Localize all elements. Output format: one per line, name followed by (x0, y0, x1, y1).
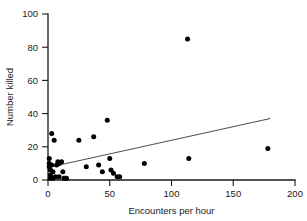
data-point (100, 169, 105, 174)
y-tick-label-60: 60 (27, 75, 38, 86)
x-axis-title: Encounters per hour (128, 205, 214, 216)
y-tick-label-0: 0 (33, 174, 38, 185)
data-point (142, 161, 147, 166)
data-point (107, 156, 112, 161)
data-point (91, 134, 96, 139)
data-point (49, 131, 54, 136)
data-point (60, 169, 65, 174)
data-point (111, 171, 116, 176)
data-point (186, 156, 191, 161)
y-axis-title: Number killed (4, 68, 15, 126)
data-point (47, 156, 52, 161)
data-point (76, 138, 81, 143)
data-point (50, 169, 55, 174)
data-point (117, 174, 122, 179)
x-axis-ticks (48, 180, 295, 186)
data-point (59, 159, 64, 164)
y-tick-label-80: 80 (27, 42, 38, 53)
y-tick-label-20: 20 (27, 141, 38, 152)
chart-canvas: 0 20 40 60 80 100 0 50 100 150 200 Encou… (0, 0, 307, 221)
y-axis-ticks (42, 14, 48, 180)
data-point (96, 163, 101, 168)
data-points-group (47, 36, 271, 180)
data-point (57, 174, 62, 179)
y-tick-label-40: 40 (27, 108, 38, 119)
x-tick-label-50: 50 (104, 188, 115, 199)
x-tick-label-150: 150 (225, 188, 241, 199)
data-point (105, 118, 110, 123)
trend-line (48, 119, 270, 168)
x-tick-label-200: 200 (287, 188, 303, 199)
x-tick-label-0: 0 (45, 188, 50, 199)
scatter-plot-figure: 0 20 40 60 80 100 0 50 100 150 200 Encou… (0, 0, 307, 221)
data-point (64, 176, 69, 181)
x-tick-label-100: 100 (164, 188, 180, 199)
y-tick-label-100: 100 (22, 8, 38, 19)
data-point (185, 36, 190, 41)
data-point (84, 164, 89, 169)
data-point (49, 163, 54, 168)
data-point (52, 138, 57, 143)
data-point (265, 146, 270, 151)
